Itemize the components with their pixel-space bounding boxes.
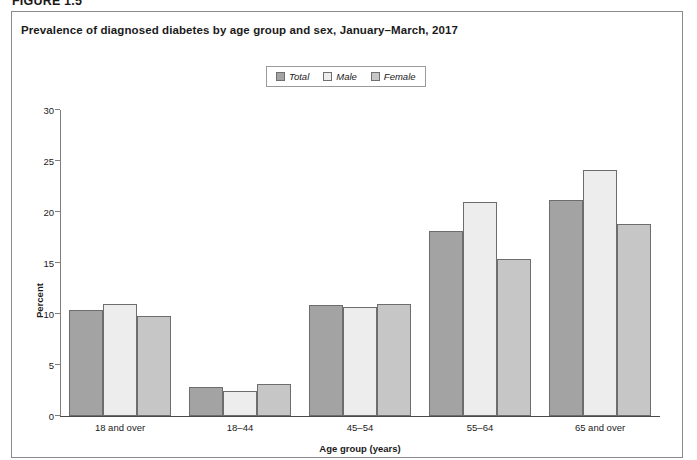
bar-group [300, 110, 420, 416]
bar-female-4 [497, 259, 531, 416]
legend-label: Female [384, 71, 416, 82]
figure-label: FIGURE 1.5 [12, 0, 82, 8]
y-axis-tick-label: 20 [43, 207, 54, 218]
legend-label: Total [289, 71, 309, 82]
bar-total-5 [549, 200, 583, 416]
bar-total-1 [69, 310, 103, 416]
bar-group [420, 110, 540, 416]
y-axis-tick-label: 25 [43, 156, 54, 167]
bar-female-3 [377, 304, 411, 416]
x-axis-category-label: 18–44 [180, 422, 300, 433]
y-axis-tick-label: 5 [49, 360, 54, 371]
x-axis-category-label: 18 and over [60, 422, 180, 433]
plot-area: Percent Age group (years) 18 and over18–… [60, 110, 660, 417]
x-axis-category-label: 55–64 [420, 422, 540, 433]
x-axis-title: Age group (years) [60, 443, 660, 454]
x-axis-line [60, 416, 660, 417]
chart-legend: TotalMaleFemale [266, 66, 426, 87]
legend-item-total: Total [276, 71, 309, 82]
bar-female-5 [617, 224, 651, 416]
legend-item-male: Male [323, 71, 357, 82]
bar-male-2 [223, 391, 257, 417]
bar-total-4 [429, 231, 463, 416]
legend-swatch-icon [323, 72, 332, 81]
bar-total-3 [309, 305, 343, 416]
legend-swatch-icon [276, 72, 285, 81]
y-axis-tick-label: 0 [49, 411, 54, 422]
bar-male-1 [103, 304, 137, 416]
bar-total-2 [189, 387, 223, 416]
bar-group [60, 110, 180, 416]
legend-swatch-icon [371, 72, 380, 81]
bar-male-3 [343, 307, 377, 416]
y-axis-tick-labels: 051015202530 [30, 110, 54, 417]
bar-male-4 [463, 202, 497, 416]
x-axis-category-label: 65 and over [540, 422, 660, 433]
bar-group [180, 110, 300, 416]
y-axis-title: Percent [34, 283, 45, 318]
bar-female-1 [137, 316, 171, 416]
legend-item-female: Female [371, 71, 416, 82]
bar-male-5 [583, 170, 617, 416]
legend-label: Male [336, 71, 357, 82]
chart-title: Prevalence of diagnosed diabetes by age … [21, 24, 458, 36]
y-axis-tick-label: 15 [43, 258, 54, 269]
bar-group [540, 110, 660, 416]
y-axis-tick-label: 30 [43, 105, 54, 116]
bar-female-2 [257, 384, 291, 416]
y-axis-tick-label: 10 [43, 309, 54, 320]
x-axis-category-label: 45–54 [300, 422, 420, 433]
